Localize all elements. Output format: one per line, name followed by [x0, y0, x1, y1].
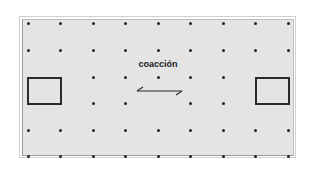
double-arrow-icon [0, 0, 309, 172]
